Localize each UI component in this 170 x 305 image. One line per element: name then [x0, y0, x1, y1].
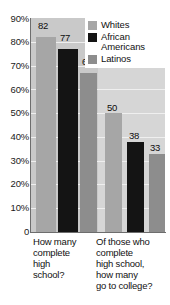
- y-tick-30: 30%: [1, 156, 29, 166]
- legend-item-latinos: Latinos: [88, 54, 163, 65]
- legend-item-african-americans: African Americans: [88, 32, 163, 53]
- y-tick-60: 60%: [1, 85, 29, 95]
- y-tick-50: 50%: [1, 108, 29, 118]
- bar-group2-latinos: [149, 154, 165, 233]
- x-axis-category-labels: How many complete high school? Of those …: [30, 236, 170, 305]
- bar-group1-whites: [36, 37, 56, 232]
- legend: Whites African Americans Latinos: [85, 17, 165, 68]
- y-tick-90: 90%: [1, 14, 29, 24]
- y-tick-70: 70%: [1, 61, 29, 71]
- bar-chart: 90% 80% 70% 60% 50% 40% 30% 20% 10% 0 82…: [0, 0, 170, 305]
- x-axis-line: [30, 232, 166, 233]
- legend-label-whites: Whites: [101, 20, 129, 31]
- bar-group1-african-americans: [58, 49, 78, 232]
- value-label-group2-latinos: 33: [144, 143, 166, 153]
- y-tick-0: 0: [1, 227, 29, 237]
- y-tick-40: 40%: [1, 132, 29, 142]
- bar-group2-whites: [105, 113, 122, 232]
- legend-swatch-african-americans-icon: [88, 33, 97, 42]
- value-label-group1-whites: 82: [32, 21, 54, 31]
- legend-label-african-americans: African Americans: [101, 32, 163, 53]
- legend-label-latinos: Latinos: [101, 54, 131, 65]
- y-axis: 90% 80% 70% 60% 50% 40% 30% 20% 10% 0: [0, 0, 29, 305]
- bar-group2-african-americans: [127, 142, 144, 232]
- legend-swatch-whites-icon: [88, 21, 97, 30]
- legend-item-whites: Whites: [88, 20, 163, 31]
- value-label-group2-african-americans: 38: [123, 131, 145, 141]
- value-label-group1-african-americans: 77: [54, 33, 76, 43]
- y-tick-10: 10%: [1, 203, 29, 213]
- legend-swatch-latinos-icon: [88, 55, 97, 64]
- y-tick-20: 20%: [1, 179, 29, 189]
- bar-group1-latinos: [80, 73, 97, 232]
- category-label-group1: How many complete high school?: [33, 236, 95, 280]
- y-tick-80: 80%: [1, 37, 29, 47]
- y-axis-line: [30, 18, 31, 233]
- category-label-group2: Of those who complete high school, how m…: [96, 236, 170, 291]
- value-label-group2-whites: 50: [101, 103, 123, 113]
